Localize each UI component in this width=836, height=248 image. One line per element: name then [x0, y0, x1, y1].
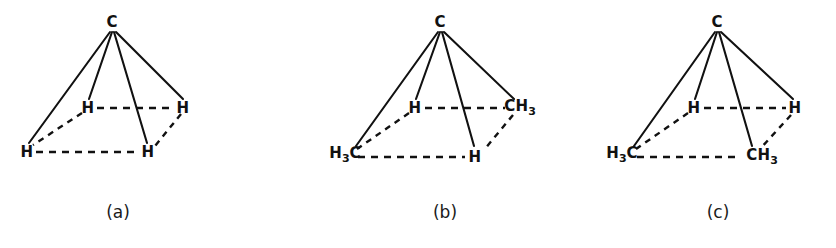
atom-c-back-left-h: H: [688, 101, 701, 116]
bond-apex-to-front-right-c: [719, 32, 752, 146]
bond-apex-to-front-left-c: [634, 32, 715, 146]
atom-c-front-left-h3c: H3C: [606, 146, 638, 163]
bond-base-right-c: [760, 115, 791, 149]
atom-c-front-right-ch3: CH3: [746, 148, 778, 165]
atom-c-front-left-h3c-tail: C: [627, 144, 638, 162]
atom-c-apex-c-text: C: [711, 13, 722, 31]
atom-c-front-right-ch3-sub: 3: [770, 154, 778, 167]
bond-apex-to-back-right-c: [721, 32, 793, 99]
caption-panel-c-text: (c): [707, 202, 730, 222]
atom-c-back-right-h: H: [789, 101, 802, 116]
caption-panel-c: (c): [707, 204, 730, 221]
atom-c-back-left-h-text: H: [688, 99, 701, 117]
bond-apex-to-back-left-c: [695, 32, 717, 99]
atom-c-front-left-h3c-text: H: [606, 144, 619, 162]
atom-c-back-right-h-text: H: [789, 99, 802, 117]
atom-c-apex-c: C: [711, 15, 722, 30]
tetrahedral-structures-figure: C H H H H (a) C H CH3 H3C H (b): [0, 0, 836, 248]
atom-c-front-right-ch3-text: CH: [746, 146, 770, 164]
